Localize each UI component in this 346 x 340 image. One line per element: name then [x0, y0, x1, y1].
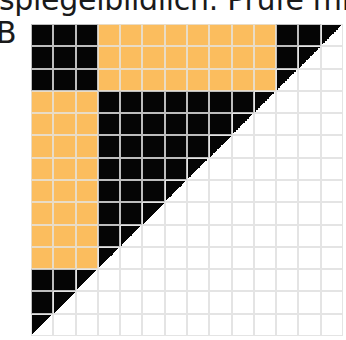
grid-cell-orange	[76, 225, 98, 247]
grid-cell-diag	[276, 69, 298, 91]
grid-cell-white	[254, 269, 276, 291]
grid-cell-orange	[142, 69, 164, 91]
grid-cell-white	[187, 269, 209, 291]
grid-cell-orange	[31, 91, 53, 113]
grid-cell-white	[254, 113, 276, 135]
grid-cell-orange	[53, 180, 75, 202]
grid-cell-white	[209, 225, 231, 247]
grid-cell-white	[209, 158, 231, 180]
grid-cell-white	[232, 247, 254, 269]
grid-cell-white	[232, 225, 254, 247]
grid-cell-orange	[53, 91, 75, 113]
grid-cell-white	[165, 202, 187, 224]
grid-cell-black	[31, 269, 53, 291]
grid-cell-black	[276, 46, 298, 68]
grid-cell-black	[165, 113, 187, 135]
grid-cell-black	[98, 180, 120, 202]
grid-cell-white	[98, 291, 120, 313]
grid-cell-white	[298, 113, 320, 135]
grid-cell-white	[209, 269, 231, 291]
grid-cell-diag	[53, 291, 75, 313]
grid-cell-black	[120, 135, 142, 157]
figure-label: B	[0, 16, 17, 50]
grid-cell-orange	[31, 180, 53, 202]
grid-cell-orange	[31, 225, 53, 247]
grid-cell-white	[298, 247, 320, 269]
grid-cell-diag	[209, 135, 231, 157]
grid-cell-orange	[53, 225, 75, 247]
grid-cell-black	[232, 91, 254, 113]
grid-cell-white	[209, 202, 231, 224]
grid-cell-orange	[31, 158, 53, 180]
grid-cell-diag	[254, 91, 276, 113]
grid-cell-black	[98, 202, 120, 224]
grid-cell-white	[165, 269, 187, 291]
grid-cell-white	[276, 135, 298, 157]
grid-cell-orange	[76, 135, 98, 157]
grid-cell-diag	[76, 269, 98, 291]
grid-cell-white	[254, 291, 276, 313]
grid-cell-black	[120, 158, 142, 180]
grid-cell-orange	[98, 69, 120, 91]
grid-cell-white	[232, 180, 254, 202]
grid-cell-white	[276, 291, 298, 313]
grid-cell-white	[76, 291, 98, 313]
grid-cell-orange	[53, 135, 75, 157]
grid-cell-black	[98, 91, 120, 113]
grid-cell-white	[298, 180, 320, 202]
grid-cell-black	[187, 91, 209, 113]
grid-cell-black	[76, 46, 98, 68]
grid-cell-white	[232, 291, 254, 313]
grid-cell-orange	[31, 113, 53, 135]
grid-cell-white	[232, 202, 254, 224]
grid-cell-white	[298, 291, 320, 313]
grid-cell-orange	[254, 46, 276, 68]
grid-cell-white	[76, 314, 98, 336]
grid-cell-black	[120, 202, 142, 224]
grid-cell-white	[165, 314, 187, 336]
grid-cell-white	[321, 46, 343, 68]
grid-cell-black	[298, 24, 320, 46]
grid-cell-orange	[187, 46, 209, 68]
grid-cell-orange	[165, 69, 187, 91]
grid-cell-black	[142, 158, 164, 180]
grid-cell-white	[321, 91, 343, 113]
grid-cell-black	[53, 46, 75, 68]
grid-cell-white	[187, 180, 209, 202]
grid-cell-orange	[76, 113, 98, 135]
grid-cell-white	[209, 247, 231, 269]
grid-cell-white	[254, 314, 276, 336]
grid-cell-black	[31, 291, 53, 313]
grid-cell-black	[187, 113, 209, 135]
grid-cell-white	[254, 225, 276, 247]
grid-cell-diag	[232, 113, 254, 135]
grid-cell-black	[53, 269, 75, 291]
grid-cell-orange	[31, 247, 53, 269]
grid-cell-white	[120, 247, 142, 269]
grid-cell-white	[276, 180, 298, 202]
grid-cell-white	[165, 225, 187, 247]
grid-cell-white	[232, 269, 254, 291]
grid-cell-orange	[31, 202, 53, 224]
grid-cell-white	[142, 269, 164, 291]
grid-cell-black	[53, 69, 75, 91]
grid-cell-black	[165, 91, 187, 113]
grid-cell-black	[187, 135, 209, 157]
grid-cell-orange	[120, 24, 142, 46]
grid-cell-orange	[76, 91, 98, 113]
grid-cell-diag	[298, 46, 320, 68]
grid-cell-diag	[187, 158, 209, 180]
grid-cell-white	[165, 291, 187, 313]
grid-cell-orange	[76, 247, 98, 269]
grid-cell-white	[142, 314, 164, 336]
grid-cell-black	[31, 46, 53, 68]
grid-cell-black	[76, 69, 98, 91]
grid-cell-white	[187, 291, 209, 313]
grid-cell-black	[142, 180, 164, 202]
grid-cell-white	[187, 314, 209, 336]
grid-cell-orange	[165, 24, 187, 46]
grid-cell-black	[120, 91, 142, 113]
grid-cell-white	[254, 202, 276, 224]
grid-cell-white	[98, 269, 120, 291]
grid-cell-black	[98, 113, 120, 135]
